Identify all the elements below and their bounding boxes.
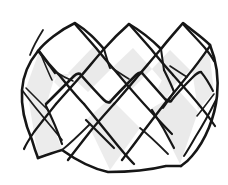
woven-band-drawing: Woven band Hand-drawn line illustration …: [0, 0, 228, 185]
figure-canvas: Woven band Hand-drawn line illustration …: [0, 0, 228, 185]
